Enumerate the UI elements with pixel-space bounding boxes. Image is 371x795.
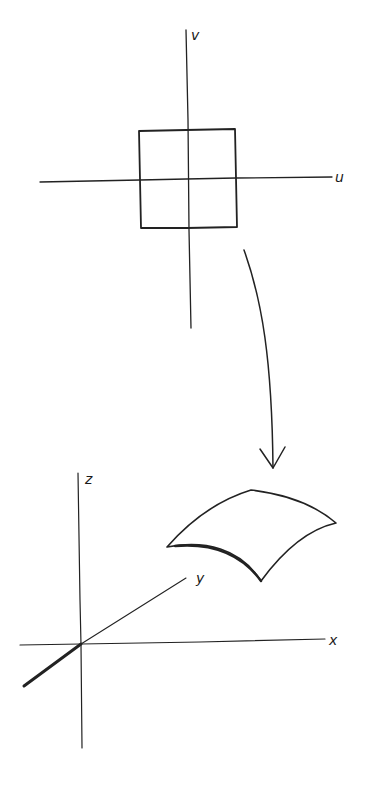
- v-axis-label: v: [191, 27, 200, 43]
- y-axis-positive: [81, 578, 186, 644]
- mapping-arrow: [244, 250, 285, 468]
- x-axis: [20, 639, 325, 645]
- surface-front-edge: [175, 545, 261, 581]
- uv-plane: v u: [40, 27, 344, 328]
- u-axis: [40, 177, 332, 182]
- y-axis-negative: [24, 644, 81, 686]
- mapping-arrow-shaft: [244, 250, 273, 468]
- z-axis: [78, 473, 82, 748]
- x-axis-label: x: [328, 632, 338, 648]
- xyz-space: z y x: [20, 471, 338, 748]
- y-axis-label: y: [195, 570, 205, 586]
- z-axis-label: z: [84, 471, 93, 487]
- surface-patch: [167, 490, 336, 581]
- u-axis-label: u: [335, 169, 344, 185]
- parametric-surface-diagram: v u z y x: [0, 0, 371, 795]
